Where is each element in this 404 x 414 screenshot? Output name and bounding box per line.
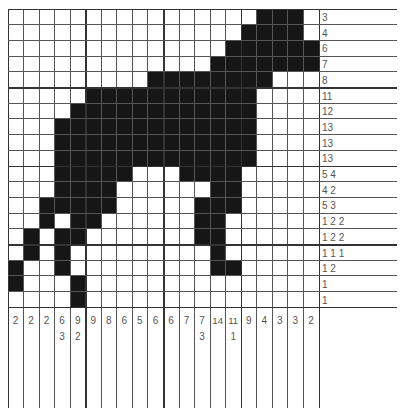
grid-cell[interactable] [164, 197, 180, 213]
grid-cell[interactable] [226, 56, 242, 72]
grid-cell[interactable] [70, 72, 86, 88]
grid-cell[interactable] [179, 292, 195, 308]
grid-cell[interactable] [70, 56, 86, 72]
grid-cell[interactable] [39, 103, 55, 119]
grid-cell[interactable] [195, 9, 211, 25]
grid-cell[interactable] [117, 72, 133, 88]
grid-cell[interactable] [132, 245, 148, 261]
grid-cell[interactable] [117, 119, 133, 135]
grid-cell[interactable] [148, 135, 164, 151]
grid-cell[interactable] [241, 103, 257, 119]
grid-cell[interactable] [148, 25, 164, 41]
grid-cell[interactable] [55, 276, 71, 292]
grid-cell[interactable] [195, 135, 211, 151]
grid-cell[interactable] [241, 166, 257, 182]
grid-cell[interactable] [70, 182, 86, 198]
grid-cell[interactable] [70, 166, 86, 182]
grid-cell[interactable] [226, 245, 242, 261]
grid-cell[interactable] [8, 40, 24, 56]
grid-cell[interactable] [179, 25, 195, 41]
grid-cell[interactable] [272, 9, 288, 25]
grid-cell[interactable] [226, 119, 242, 135]
grid-cell[interactable] [195, 229, 211, 245]
grid-cell[interactable] [8, 72, 24, 88]
grid-cell[interactable] [148, 56, 164, 72]
grid-cell[interactable] [195, 182, 211, 198]
grid-cell[interactable] [288, 292, 304, 308]
grid-cell[interactable] [70, 229, 86, 245]
grid-cell[interactable] [55, 9, 71, 25]
grid-cell[interactable] [86, 25, 102, 41]
grid-cell[interactable] [241, 135, 257, 151]
grid-cell[interactable] [132, 135, 148, 151]
grid-cell[interactable] [179, 229, 195, 245]
grid-cell[interactable] [303, 166, 319, 182]
grid-cell[interactable] [39, 40, 55, 56]
grid-cell[interactable] [226, 213, 242, 229]
grid-cell[interactable] [257, 197, 273, 213]
grid-cell[interactable] [179, 245, 195, 261]
grid-cell[interactable] [101, 213, 117, 229]
grid-cell[interactable] [257, 135, 273, 151]
grid-cell[interactable] [257, 292, 273, 308]
grid-cell[interactable] [24, 182, 40, 198]
grid-cell[interactable] [148, 213, 164, 229]
grid-cell[interactable] [303, 245, 319, 261]
grid-cell[interactable] [272, 166, 288, 182]
grid-cell[interactable] [226, 276, 242, 292]
grid-cell[interactable] [101, 292, 117, 308]
grid-cell[interactable] [272, 260, 288, 276]
grid-cell[interactable] [24, 276, 40, 292]
grid-cell[interactable] [195, 25, 211, 41]
grid-cell[interactable] [8, 135, 24, 151]
grid-cell[interactable] [148, 40, 164, 56]
grid-cell[interactable] [24, 56, 40, 72]
grid-cell[interactable] [132, 72, 148, 88]
grid-cell[interactable] [272, 40, 288, 56]
grid-cell[interactable] [195, 119, 211, 135]
grid-cell[interactable] [226, 166, 242, 182]
grid-cell[interactable] [272, 276, 288, 292]
grid-cell[interactable] [164, 56, 180, 72]
grid-cell[interactable] [288, 276, 304, 292]
grid-cell[interactable] [117, 56, 133, 72]
grid-cell[interactable] [24, 166, 40, 182]
grid-cell[interactable] [132, 25, 148, 41]
grid-cell[interactable] [55, 260, 71, 276]
grid-cell[interactable] [39, 135, 55, 151]
grid-cell[interactable] [164, 25, 180, 41]
grid-cell[interactable] [24, 103, 40, 119]
grid-cell[interactable] [303, 56, 319, 72]
grid-cell[interactable] [117, 40, 133, 56]
grid-cell[interactable] [55, 88, 71, 104]
grid-cell[interactable] [148, 197, 164, 213]
grid-cell[interactable] [70, 9, 86, 25]
grid-cell[interactable] [8, 292, 24, 308]
grid-cell[interactable] [70, 119, 86, 135]
grid-cell[interactable] [303, 88, 319, 104]
grid-cell[interactable] [132, 229, 148, 245]
grid-cell[interactable] [257, 229, 273, 245]
grid-cell[interactable] [132, 292, 148, 308]
grid-cell[interactable] [179, 150, 195, 166]
grid-cell[interactable] [24, 150, 40, 166]
grid-cell[interactable] [55, 182, 71, 198]
grid-cell[interactable] [86, 197, 102, 213]
grid-cell[interactable] [241, 88, 257, 104]
grid-cell[interactable] [303, 197, 319, 213]
grid-cell[interactable] [86, 103, 102, 119]
grid-cell[interactable] [241, 40, 257, 56]
grid-cell[interactable] [241, 245, 257, 261]
grid-cell[interactable] [39, 276, 55, 292]
grid-cell[interactable] [39, 229, 55, 245]
grid-cell[interactable] [257, 213, 273, 229]
grid-cell[interactable] [226, 9, 242, 25]
grid-cell[interactable] [257, 119, 273, 135]
grid-cell[interactable] [288, 72, 304, 88]
grid-cell[interactable] [257, 166, 273, 182]
grid-cell[interactable] [226, 103, 242, 119]
grid-cell[interactable] [226, 40, 242, 56]
grid-cell[interactable] [272, 197, 288, 213]
grid-cell[interactable] [195, 213, 211, 229]
grid-cell[interactable] [70, 150, 86, 166]
